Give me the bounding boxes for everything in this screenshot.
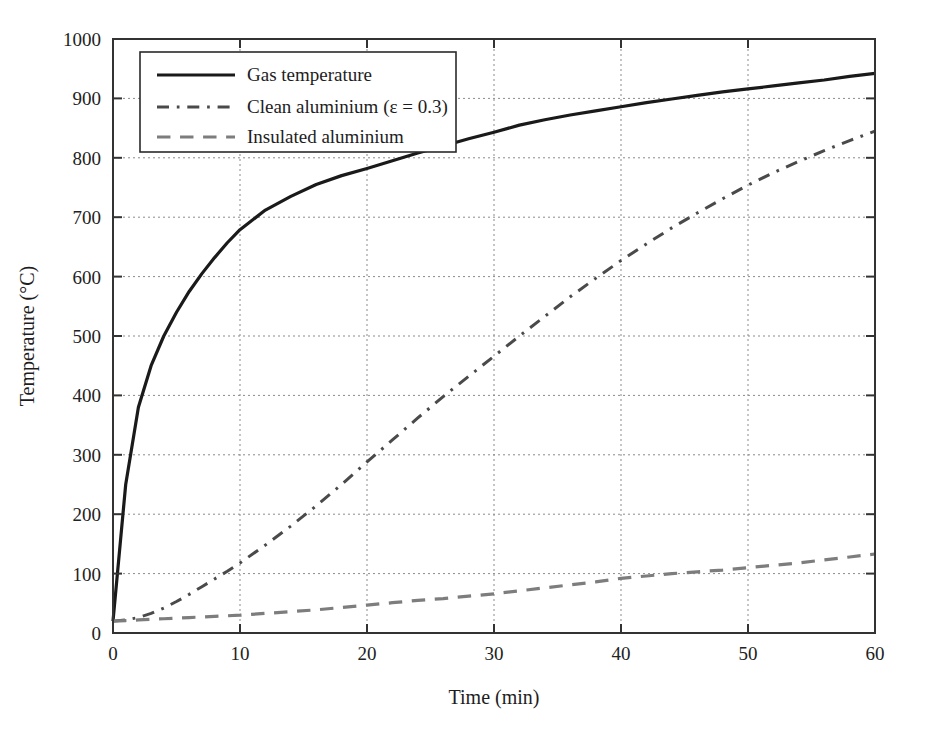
x-tick-label: 30 xyxy=(485,643,504,664)
x-tick-label: 0 xyxy=(108,643,118,664)
y-tick-label: 200 xyxy=(73,504,102,525)
y-tick-label: 500 xyxy=(73,326,102,347)
x-axis-title: Time (min) xyxy=(449,686,540,709)
chart-figure: 0100200300400500600700800900100001020304… xyxy=(0,0,925,730)
legend: Gas temperatureClean aluminium (ε = 0.3)… xyxy=(140,52,456,152)
y-tick-label: 1000 xyxy=(63,29,101,50)
x-tick-label: 10 xyxy=(231,643,250,664)
temperature-vs-time-line-chart: 0100200300400500600700800900100001020304… xyxy=(0,0,925,730)
x-tick-label: 40 xyxy=(612,643,631,664)
x-tick-label: 50 xyxy=(739,643,758,664)
y-tick-label: 900 xyxy=(73,88,102,109)
x-tick-label: 60 xyxy=(866,643,885,664)
y-tick-label: 600 xyxy=(73,267,102,288)
y-tick-label: 400 xyxy=(73,385,102,406)
y-tick-label: 300 xyxy=(73,445,102,466)
y-tick-label: 0 xyxy=(92,623,102,644)
y-axis-title: Temperature (°C) xyxy=(16,266,39,406)
y-tick-label: 800 xyxy=(73,148,102,169)
legend-label-0: Gas temperature xyxy=(247,64,372,85)
y-tick-label: 700 xyxy=(73,207,102,228)
legend-label-1: Clean aluminium (ε = 0.3) xyxy=(247,96,448,118)
x-tick-label: 20 xyxy=(358,643,377,664)
y-tick-label: 100 xyxy=(73,564,102,585)
legend-label-2: Insulated aluminium xyxy=(247,126,404,147)
